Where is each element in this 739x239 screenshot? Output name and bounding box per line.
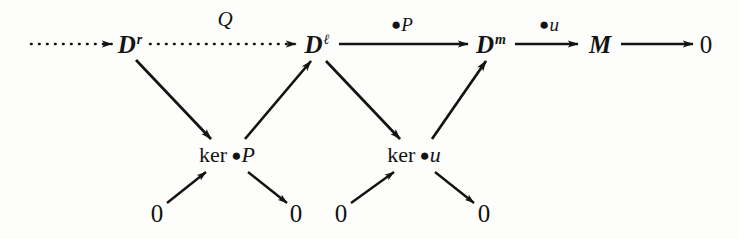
node-ker-u-word: ker: [387, 142, 415, 167]
edge-keru-to-zero4: [435, 172, 474, 203]
edge-label-bullet-u: ●u: [535, 15, 559, 34]
node-D-l-superscript: ℓ: [324, 31, 330, 46]
node-zero-2: 0: [290, 201, 303, 226]
bullet-icon: ●: [231, 146, 241, 165]
node-D-r-base: D: [118, 31, 136, 58]
node-zero-top-right: 0: [700, 32, 713, 57]
edge-label-bullet-P: ●P: [387, 15, 413, 34]
edge-zero3-to-keru: [351, 172, 394, 203]
diagram-edges: D^l dotted, labeled Q --> D^m solid, lab…: [0, 0, 739, 239]
node-zero-4: 0: [478, 201, 491, 226]
node-ker-u-operator: u: [430, 142, 441, 167]
node-D-m-superscript: m: [495, 31, 506, 46]
node-D-m: Dm: [476, 32, 506, 57]
node-D-r: Dr: [118, 32, 143, 57]
edge-label-P-operator: P: [401, 14, 413, 35]
edge-kerP-to-Dl: [245, 61, 311, 139]
node-D-r-superscript: r: [137, 31, 142, 46]
node-zero-3: 0: [335, 201, 348, 226]
bullet-icon: ●: [419, 146, 429, 165]
edge-Dl-to-keru: [326, 61, 400, 139]
node-D-l-base: D: [304, 31, 322, 58]
edge-label-u-operator: u: [549, 14, 559, 35]
node-M-base: M: [589, 31, 611, 58]
edge-kerP-to-zero2: [248, 172, 287, 203]
node-ker-P-word: ker: [199, 142, 227, 167]
node-ker-P-operator: P: [241, 142, 254, 167]
node-M: M: [589, 32, 611, 57]
diagram-canvas: D^l dotted, labeled Q --> D^m solid, lab…: [0, 0, 739, 239]
node-ker-u: ker●u: [387, 144, 440, 166]
node-zero-1: 0: [151, 201, 164, 226]
node-D-l: Dℓ: [304, 32, 329, 57]
edge-keru-to-Dm: [432, 61, 486, 139]
edge-zero1-to-kerP: [167, 172, 206, 203]
bullet-icon: ●: [539, 15, 549, 34]
node-D-m-base: D: [476, 31, 494, 58]
edge-label-Q: Q: [217, 9, 232, 30]
edge-Dr-to-kerP: [136, 60, 211, 139]
bullet-icon: ●: [391, 15, 401, 34]
node-ker-P: ker●P: [199, 144, 255, 166]
